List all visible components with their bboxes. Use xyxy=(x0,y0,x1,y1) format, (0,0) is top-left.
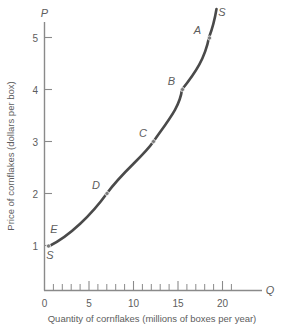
axes-group xyxy=(44,22,262,291)
x-ticklabel-10: 10 xyxy=(128,298,140,309)
y-ticklabel-4: 4 xyxy=(32,85,38,96)
x-axis-major-ticks xyxy=(89,281,223,291)
curve-label-bottom: S xyxy=(46,249,54,261)
curve-label-top: S xyxy=(218,6,226,18)
x-ticklabel-15: 15 xyxy=(172,298,184,309)
y-ticklabel-3: 3 xyxy=(32,137,38,148)
supply-curve xyxy=(49,9,217,247)
y-ticklabel-2: 2 xyxy=(32,189,38,200)
point-label-C: C xyxy=(139,127,147,139)
x-axis-symbol: Q xyxy=(266,284,275,296)
data-points xyxy=(46,36,211,248)
point-label-D: D xyxy=(92,179,100,191)
x-axis-tick-labels: 0 5 10 15 20 xyxy=(42,298,229,309)
x-ticklabel-5: 5 xyxy=(86,298,92,309)
y-ticklabel-1: 1 xyxy=(32,241,38,252)
y-ticklabel-5: 5 xyxy=(32,33,38,44)
x-axis-title: Quantity of cornflakes (millions of boxe… xyxy=(48,313,257,324)
data-point-B xyxy=(180,87,184,91)
x-axis-minor-ticks xyxy=(53,284,231,291)
data-point-labels: A B C D E xyxy=(50,24,201,235)
point-label-B: B xyxy=(168,75,175,87)
data-point-E xyxy=(46,244,50,248)
y-axis-ticks xyxy=(45,38,53,246)
data-point-C xyxy=(151,139,155,143)
point-label-A: A xyxy=(193,24,201,36)
y-axis-symbol: P xyxy=(41,7,49,19)
y-axis-title: Price of cornflakes (dollars per box) xyxy=(5,81,16,230)
chart-canvas: 5 4 3 2 1 xyxy=(0,0,281,328)
x-ticklabel-0: 0 xyxy=(42,298,48,309)
y-axis-tick-labels: 5 4 3 2 1 xyxy=(32,33,38,252)
point-label-E: E xyxy=(50,223,58,235)
data-point-A xyxy=(207,36,211,40)
supply-curve-figure: 5 4 3 2 1 xyxy=(0,0,281,328)
data-point-D xyxy=(105,191,109,195)
x-ticklabel-20: 20 xyxy=(217,298,229,309)
